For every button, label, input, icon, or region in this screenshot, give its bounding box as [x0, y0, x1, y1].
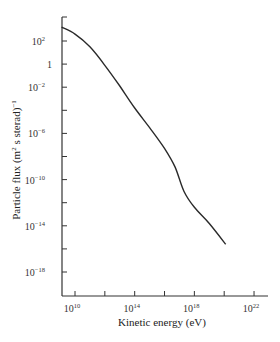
- x-tick-label: 1014: [123, 302, 140, 314]
- y-tick-label: 10−14: [25, 220, 46, 232]
- y-tick-label: 102: [32, 35, 45, 47]
- flux-energy-chart: 1010101410181022 102110−210−610−1010−141…: [0, 0, 280, 342]
- y-tick-label: 10−18: [25, 266, 45, 278]
- y-axis-title: Particle flux (m2 s sterad)−1: [10, 100, 23, 220]
- x-tick-label: 1018: [183, 302, 200, 314]
- y-tick-label: 10−2: [28, 81, 45, 93]
- x-tick-label: 1010: [64, 302, 81, 314]
- y-tick-label: 10−6: [28, 127, 46, 139]
- x-tick-label: 1022: [243, 302, 259, 314]
- y-tick-label: 10−10: [25, 174, 45, 186]
- y-axis-ticks: 102110−210−610−1010−1410−18: [25, 35, 67, 278]
- x-axis-title: Kinetic energy (eV): [118, 316, 206, 329]
- x-axis-ticks: 1010101410181022: [64, 291, 260, 314]
- axes: [62, 17, 268, 296]
- flux-curve: [62, 27, 226, 244]
- y-tick-label: 1: [47, 59, 52, 70]
